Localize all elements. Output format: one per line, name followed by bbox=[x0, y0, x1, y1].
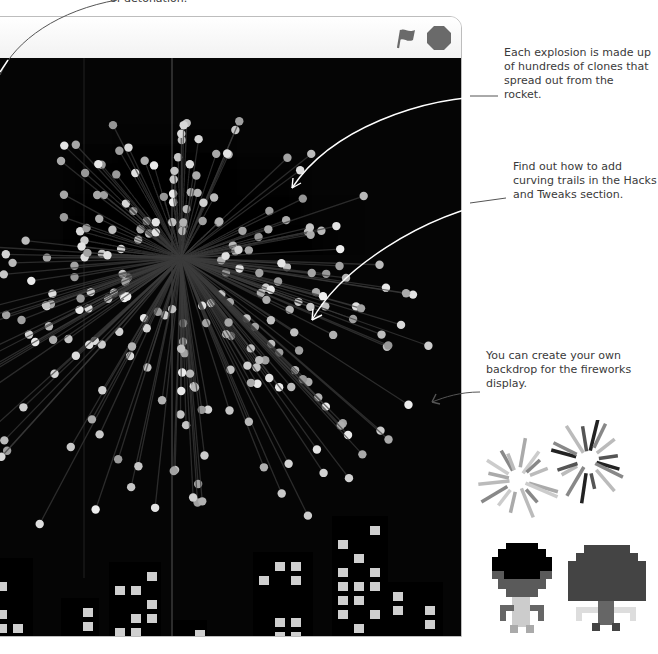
explosion-costume-light bbox=[478, 438, 558, 517]
explosion-costumes bbox=[478, 420, 658, 530]
stage-canvas[interactable] bbox=[0, 58, 461, 637]
explosion-costume-dark bbox=[551, 420, 623, 503]
stage-header bbox=[0, 17, 461, 58]
annotation-backdrop: You can create your own backdrop for the… bbox=[486, 349, 636, 391]
annotation-detonation: of detonation. bbox=[110, 0, 187, 6]
stage-window bbox=[0, 16, 462, 637]
rocket-costume-1 bbox=[492, 543, 552, 633]
green-flag-button[interactable] bbox=[393, 26, 417, 50]
stop-button[interactable] bbox=[426, 25, 452, 51]
rocket-costume-2 bbox=[568, 545, 646, 631]
annotation-trails: Find out how to add curving trails in th… bbox=[513, 160, 658, 202]
green-flag-icon bbox=[393, 26, 417, 50]
stop-sign-icon bbox=[426, 25, 452, 51]
fireworks-scene bbox=[0, 58, 461, 637]
annotation-clones: Each explosion is made up of hundreds of… bbox=[504, 46, 654, 102]
rocket-costumes bbox=[490, 535, 658, 645]
